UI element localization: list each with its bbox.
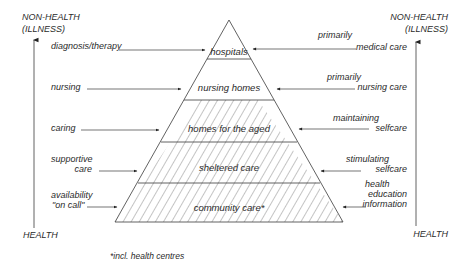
left-label-on-call: "on call"	[52, 200, 85, 210]
right-label-medical-care: medical care	[356, 42, 407, 52]
footnote: *incl. health centres	[110, 251, 185, 261]
right-label-primarily-1: primarily	[317, 30, 353, 40]
left-label-availability: availability	[51, 190, 93, 200]
left-axis-top-label-sub: (ILLNESS)	[22, 24, 65, 34]
right-label-stimulating: stimulating	[346, 154, 389, 164]
right-label-selfcare-1: selfcare	[375, 123, 407, 133]
tier-homes-for-the-aged: homes for the aged	[188, 123, 271, 134]
left-axis-top-label: NON-HEALTH	[22, 12, 80, 22]
right-label-nursing-care: nursing care	[357, 82, 407, 92]
left-axis-bottom-label: HEALTH	[23, 230, 58, 240]
right-label-information: information	[362, 199, 407, 209]
right-label-primarily-2: primarily	[326, 72, 362, 82]
left-label-caring: caring	[51, 123, 76, 133]
left-label-supportive: supportive	[51, 154, 93, 164]
right-axis-top-label: NON-HEALTH	[390, 12, 448, 22]
tier-community-care: community care*	[194, 202, 265, 213]
right-label-health: health	[365, 179, 390, 189]
left-label-nursing: nursing	[51, 82, 81, 92]
care-pyramid-diagram: hospitals nursing homes homes for the ag…	[0, 0, 460, 266]
tier-nursing-homes: nursing homes	[198, 82, 261, 93]
right-label-education: education	[368, 189, 407, 199]
left-label-diagnosis-therapy: diagnosis/therapy	[51, 41, 122, 51]
tier-hospitals: hospitals	[210, 46, 248, 57]
left-label-care: care	[74, 164, 92, 174]
right-axis-top-label-sub: (ILLNESS)	[405, 24, 448, 34]
right-label-selfcare-2: selfcare	[375, 164, 407, 174]
right-axis-bottom-label: HEALTH	[413, 229, 448, 239]
tier-sheltered-care: sheltered care	[199, 162, 259, 173]
right-label-maintaining: maintaining	[333, 113, 379, 123]
